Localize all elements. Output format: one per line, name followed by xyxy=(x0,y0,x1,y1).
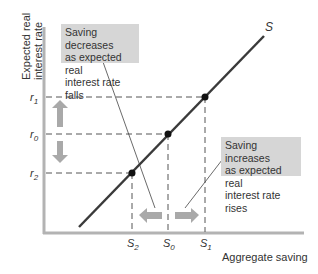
callout-decrease-line3: interest rate falls xyxy=(65,76,135,101)
callout-increase-line2: as expected real xyxy=(225,164,297,189)
callout-decrease: Saving decreases as expected real intere… xyxy=(61,24,139,63)
callout-increase-pointer xyxy=(185,160,222,208)
y-axis-label: Expected real xyxy=(20,13,32,80)
callout-decrease-line1: Saving decreases xyxy=(65,26,135,51)
tick-s2: S2 xyxy=(127,237,139,252)
curve-label: S xyxy=(265,20,273,34)
guide-lines xyxy=(46,97,205,232)
down-arrow-icon xyxy=(52,141,68,163)
tick-r1: r1 xyxy=(30,91,38,106)
callout-increase: Saving increases as expected real intere… xyxy=(221,137,301,176)
y-axis-label-2: interest rate xyxy=(32,22,44,80)
point-r1-s1 xyxy=(202,94,209,101)
callout-increase-line3: interest rate rises xyxy=(225,189,297,214)
tick-r2: r2 xyxy=(30,167,39,182)
left-arrow-icon xyxy=(139,208,162,223)
tick-s1: S1 xyxy=(200,237,212,252)
callout-increase-line1: Saving increases xyxy=(225,139,297,164)
tick-r0: r0 xyxy=(30,128,39,143)
right-arrow-icon xyxy=(175,208,199,223)
up-arrow-icon xyxy=(52,100,68,127)
x-axis-label: Aggregate saving xyxy=(222,251,308,263)
point-r2-s2 xyxy=(129,170,136,177)
callout-decrease-line2: as expected real xyxy=(65,51,135,76)
point-r0-s0 xyxy=(165,131,172,138)
tick-s0: S0 xyxy=(163,237,175,252)
